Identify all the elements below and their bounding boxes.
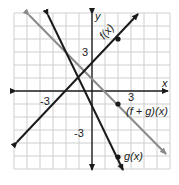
sum-function-label: (f + g)(x) (126, 105, 168, 117)
f-point-marker (115, 36, 120, 41)
y-axis-label: y (94, 10, 102, 22)
f-function-label: f(x) (97, 21, 117, 41)
y-tick-3: 3 (82, 46, 88, 58)
x-axis-label: x (161, 77, 168, 89)
sum-point-marker (115, 101, 120, 106)
axes (16, 14, 168, 170)
sum-function-line (29, 15, 166, 154)
g-function-label: g(x) (124, 150, 143, 162)
x-tick-neg3: -3 (40, 95, 50, 107)
x-tick-3: 3 (128, 91, 134, 103)
g-function-line (48, 15, 123, 170)
y-tick-neg3: -3 (74, 127, 84, 139)
g-point-marker (115, 154, 120, 159)
function-graph: x y -3 3 3 -3 f(x) g(x) (f + g)(x) (0, 0, 179, 185)
